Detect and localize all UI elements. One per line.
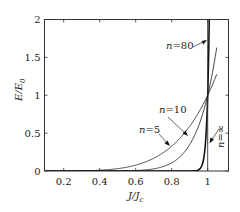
plot-frame <box>45 20 229 172</box>
y-tick-label: 1 <box>34 90 40 101</box>
label-n-5: n=5 <box>139 124 160 135</box>
y-axis-label: E/E0 <box>13 78 27 102</box>
y-tick-label: 0 <box>34 166 40 177</box>
leader-n-10 <box>168 117 186 134</box>
arrowhead-n-80 <box>202 40 208 45</box>
x-axis-label: J/Jc <box>126 190 143 204</box>
label-n-infinity: n=∞ <box>215 125 226 148</box>
x-tick-label: 0.2 <box>56 176 72 187</box>
y-tick-label: 2 <box>34 14 40 25</box>
x-tick-label: 0.8 <box>164 176 180 187</box>
x-tick-label: 1 <box>205 176 211 187</box>
chart: 0.20.40.60.8100.511.52 n=80 n=10 n=5 n=∞… <box>0 0 240 212</box>
label-n-80: n=80 <box>166 40 194 51</box>
x-tick-label: 0.4 <box>92 176 108 187</box>
label-n-10: n=10 <box>159 104 187 115</box>
y-tick-label: 0.5 <box>25 128 41 139</box>
axis-ticks <box>45 20 229 172</box>
arrowhead-n-infinity <box>210 138 215 144</box>
y-tick-label: 1.5 <box>25 52 41 63</box>
curve-n-5 <box>46 74 217 171</box>
curve-n-10 <box>46 48 217 171</box>
x-tick-label: 0.6 <box>128 176 144 187</box>
